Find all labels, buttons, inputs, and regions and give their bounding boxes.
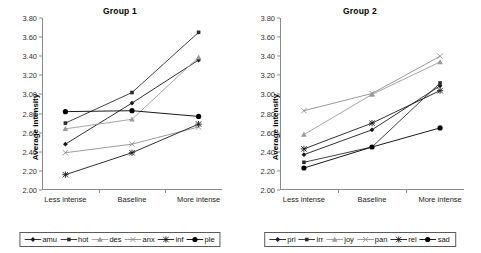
y-tick-mark xyxy=(277,190,280,191)
legend-entry-des[interactable]: des xyxy=(90,235,123,244)
marker-diamond xyxy=(63,142,68,147)
marker-circle xyxy=(426,237,431,242)
x-tick-mark xyxy=(338,190,339,193)
marker-triangle xyxy=(437,59,443,64)
legend-marker-cross-x-icon xyxy=(125,235,142,244)
marker-circle xyxy=(129,108,134,113)
legend-marker-asterisk-icon xyxy=(390,235,407,244)
legend-marker-diamond-icon xyxy=(24,235,41,244)
y-tick-mark xyxy=(277,18,280,19)
y-tick-label: 3.20 xyxy=(22,71,37,80)
marker-circle xyxy=(369,144,374,149)
marker-circle xyxy=(437,125,442,130)
y-tick-label: 2.80 xyxy=(22,109,37,118)
legend-entry-irr[interactable]: irr xyxy=(298,235,326,244)
y-tick-mark xyxy=(39,56,42,57)
legend-entry-amu[interactable]: amu xyxy=(23,235,59,244)
legend-marker-asterisk-icon xyxy=(158,235,175,244)
marker-diamond xyxy=(302,152,307,157)
y-tick-mark xyxy=(277,132,280,133)
y-tick-label: 2.60 xyxy=(260,128,275,137)
y-tick-label: 2.20 xyxy=(22,166,37,175)
legend-label-irr: irr xyxy=(317,235,325,244)
y-tick-label: 2.60 xyxy=(22,128,37,137)
chart-title-group-2: Group 2 xyxy=(240,6,480,16)
marker-square xyxy=(438,81,442,85)
y-tick-label: 3.60 xyxy=(260,33,275,42)
series-layer-group-1 xyxy=(42,18,222,190)
legend-label-sad: sad xyxy=(438,235,451,244)
y-tick-mark xyxy=(277,56,280,57)
legend-entry-rel[interactable]: rel xyxy=(389,235,418,244)
legend-label-pri: pri xyxy=(287,235,296,244)
legend-group-1: amuhotdesanxinfple xyxy=(19,232,220,247)
marker-asterisk xyxy=(369,120,375,126)
marker-cross-x xyxy=(437,54,442,59)
y-tick-mark xyxy=(277,37,280,38)
marker-diamond xyxy=(275,237,280,242)
legend-entry-inf[interactable]: inf xyxy=(157,235,186,244)
legend-marker-square-icon xyxy=(60,235,77,244)
y-tick-mark xyxy=(39,37,42,38)
legend-label-inf: inf xyxy=(176,235,185,244)
marker-circle xyxy=(301,165,306,170)
x-tick-label-more-intense: More intense xyxy=(418,195,461,204)
y-tick-label: 3.40 xyxy=(22,52,37,61)
x-tick-label-less-intense: Less intense xyxy=(44,195,86,204)
legend-entry-pan[interactable]: pan xyxy=(356,235,390,244)
marker-diamond xyxy=(370,127,375,132)
y-tick-label: 3.80 xyxy=(22,14,37,23)
marker-square xyxy=(305,238,309,242)
y-tick-label: 3.60 xyxy=(22,33,37,42)
legend-marker-triangle-icon xyxy=(326,235,343,244)
legend-marker-square-icon xyxy=(299,235,316,244)
x-tick-label-baseline: Baseline xyxy=(358,195,387,204)
marker-asterisk xyxy=(437,88,443,94)
dual-line-chart-figure: Group 1 Average intensity 2.002.202.402.… xyxy=(0,0,481,253)
y-tick-mark xyxy=(277,170,280,171)
marker-diamond xyxy=(31,237,36,242)
marker-asterisk xyxy=(129,150,135,156)
y-tick-mark xyxy=(277,151,280,152)
legend-marker-triangle-icon xyxy=(91,235,108,244)
legend-label-des: des xyxy=(109,235,122,244)
y-tick-label: 3.80 xyxy=(260,14,275,23)
y-tick-mark xyxy=(39,170,42,171)
chart-panel-group-1: Group 1 Average intensity 2.002.202.402.… xyxy=(0,0,240,253)
y-tick-mark xyxy=(277,94,280,95)
legend-marker-circle-icon xyxy=(420,235,437,244)
marker-asterisk xyxy=(62,172,68,178)
legend-entry-pri[interactable]: pri xyxy=(268,235,297,244)
x-tick-mark xyxy=(165,190,166,193)
x-tick-label-more-intense: More intense xyxy=(177,195,220,204)
legend-label-amu: amu xyxy=(42,235,58,244)
marker-square xyxy=(302,160,306,164)
legend-label-hot: hot xyxy=(78,235,89,244)
y-tick-mark xyxy=(39,151,42,152)
marker-triangle xyxy=(196,54,202,59)
legend-entry-anx[interactable]: anx xyxy=(124,235,157,244)
legend-entry-hot[interactable]: hot xyxy=(59,235,90,244)
x-tick-label-less-intense: Less intense xyxy=(283,195,325,204)
legend-entry-sad[interactable]: sad xyxy=(419,235,452,244)
y-tick-label: 3.00 xyxy=(260,90,275,99)
y-tick-mark xyxy=(39,94,42,95)
legend-marker-cross-x-icon xyxy=(357,235,374,244)
legend-label-rel: rel xyxy=(408,235,417,244)
legend-entry-joy[interactable]: joy xyxy=(325,235,356,244)
y-tick-mark xyxy=(39,18,42,19)
marker-asterisk xyxy=(301,146,307,152)
x-tick-mark xyxy=(406,190,407,193)
legend-label-anx: anx xyxy=(143,235,156,244)
legend-group-2: priirrjoypanrelsad xyxy=(264,232,456,247)
legend-label-ple: ple xyxy=(205,235,216,244)
y-tick-mark xyxy=(39,132,42,133)
legend-entry-ple[interactable]: ple xyxy=(186,235,217,244)
marker-circle xyxy=(196,114,201,119)
y-tick-mark xyxy=(39,190,42,191)
y-tick-mark xyxy=(277,75,280,76)
marker-square xyxy=(197,31,201,35)
marker-asterisk xyxy=(163,236,169,242)
marker-square xyxy=(64,121,68,125)
marker-square xyxy=(130,91,134,95)
